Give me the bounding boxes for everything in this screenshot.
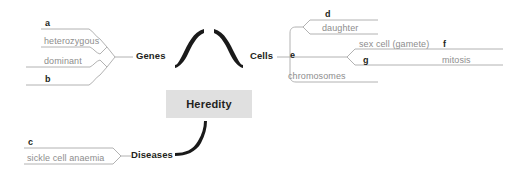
connector-cells xyxy=(214,29,243,68)
leaf-heterozygous[interactable]: heterozygous xyxy=(44,37,99,46)
leaf-marker-c[interactable]: c xyxy=(28,138,33,147)
leaf-dominant[interactable]: dominant xyxy=(44,57,82,66)
genes-leaf-line-b xyxy=(26,75,100,85)
mind-map-canvas: Heredity Genes Cells Diseases a heterozy… xyxy=(0,0,505,183)
connector-genes xyxy=(175,29,204,68)
leaf-marker-b[interactable]: b xyxy=(45,75,51,84)
leaf-sickle-cell-anaemia[interactable]: sickle cell anaemia xyxy=(27,154,104,163)
leaf-chromosomes[interactable]: chromosomes xyxy=(288,72,346,81)
leaf-marker-f[interactable]: f xyxy=(443,40,446,49)
leaf-daughter[interactable]: daughter xyxy=(322,24,358,33)
center-node-heredity[interactable]: Heredity xyxy=(166,90,252,118)
genes-leaf-line-heterozygous xyxy=(41,47,100,54)
leaf-marker-a[interactable]: a xyxy=(45,19,50,28)
diseases-bracket xyxy=(113,148,121,164)
genes-bracket-outer xyxy=(107,47,115,67)
connector-diseases xyxy=(175,121,207,156)
branch-label-cells[interactable]: Cells xyxy=(250,51,273,61)
center-node-label: Heredity xyxy=(186,98,232,110)
branch-label-genes[interactable]: Genes xyxy=(136,51,166,61)
branch-label-diseases[interactable]: Diseases xyxy=(131,150,173,160)
leaf-marker-g[interactable]: g xyxy=(363,56,369,65)
leaf-marker-e[interactable]: e xyxy=(290,51,295,60)
e-bracket xyxy=(347,49,355,65)
leaf-sex-cell-gamete[interactable]: sex cell (gamete) xyxy=(359,40,429,49)
genes-bracket-upper xyxy=(100,39,107,54)
cells-bracket-d-daughter xyxy=(303,20,310,34)
leaf-mitosis[interactable]: mitosis xyxy=(442,56,471,65)
genes-bracket-lower xyxy=(100,60,107,75)
leaf-marker-d[interactable]: d xyxy=(325,10,331,19)
